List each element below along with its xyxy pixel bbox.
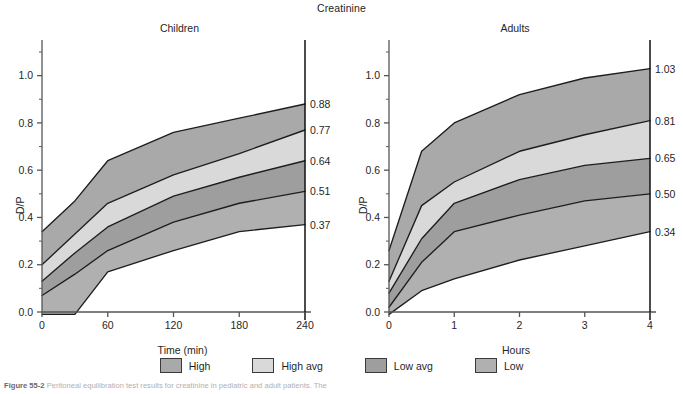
legend-item-high-avg: High avg (252, 358, 322, 373)
caption-body: Peritoneal equilibration test results fo… (47, 381, 327, 390)
y-tick-label: 1.0 (18, 69, 33, 81)
x-axis-label-adults: Hours (341, 344, 683, 356)
plot-children: 0.00.20.40.60.81.00601201802400.880.770.… (0, 22, 341, 352)
x-axis-label-children: Time (min) (0, 344, 341, 356)
legend-swatch-icon (365, 358, 387, 373)
y-tick-label: 0.0 (365, 306, 380, 318)
endpoint-value-label: 1.03 (655, 63, 676, 75)
y-tick-label: 0.8 (18, 117, 33, 129)
y-tick-label: 1.0 (365, 69, 380, 81)
y-axis-label-children: D/P (14, 196, 26, 214)
legend-item-high: High (160, 358, 211, 373)
chart-panel-children: Children 0.00.20.40.60.81.00601201802400… (0, 22, 341, 352)
figure-root: Creatinine Children 0.00.20.40.60.81.006… (0, 0, 683, 394)
chart-panel-adults: Adults 0.00.20.40.60.81.0012341.030.810.… (341, 22, 683, 352)
endpoint-value-label: 0.81 (655, 115, 676, 127)
legend-label: High avg (281, 360, 322, 372)
x-tick-label: 120 (165, 319, 183, 331)
endpoint-value-label: 0.50 (655, 188, 676, 200)
x-tick-label: 4 (647, 319, 653, 331)
figure-caption: Figure 55-2 Peritoneal equilibration tes… (4, 381, 683, 390)
y-tick-label: 0.2 (365, 258, 380, 270)
endpoint-value-label: 0.77 (310, 124, 331, 136)
x-tick-label: 1 (451, 319, 457, 331)
y-tick-label: 0.6 (365, 164, 380, 176)
legend-swatch-icon (252, 358, 274, 373)
legend-label: Low avg (394, 360, 433, 372)
plot-adults: 0.00.20.40.60.81.0012341.030.810.650.500… (341, 22, 683, 352)
x-tick-label: 240 (296, 319, 314, 331)
y-tick-label: 0.2 (18, 258, 33, 270)
chart-legend: HighHigh avgLow avgLow (0, 358, 683, 373)
x-tick-label: 60 (102, 319, 114, 331)
endpoint-value-label: 0.51 (310, 185, 331, 197)
legend-label: Low (504, 360, 523, 372)
y-tick-label: 0.0 (18, 306, 33, 318)
legend-swatch-icon (475, 358, 497, 373)
y-axis-label-adults: D/P (357, 196, 369, 214)
legend-label: High (189, 360, 211, 372)
endpoint-value-label: 0.64 (310, 155, 331, 167)
endpoint-value-label: 0.37 (310, 219, 331, 231)
x-tick-label: 3 (582, 319, 588, 331)
legend-swatch-icon (160, 358, 182, 373)
y-tick-label: 0.8 (365, 117, 380, 129)
x-tick-label: 0 (39, 319, 45, 331)
caption-figure-number: Figure 55-2 (4, 381, 45, 390)
x-tick-label: 180 (230, 319, 248, 331)
figure-title: Creatinine (0, 2, 683, 14)
endpoint-value-label: 0.34 (655, 226, 676, 238)
x-tick-label: 0 (386, 319, 392, 331)
x-tick-label: 2 (517, 319, 523, 331)
legend-item-low: Low (475, 358, 523, 373)
endpoint-value-label: 0.65 (655, 152, 676, 164)
legend-item-low-avg: Low avg (365, 358, 433, 373)
endpoint-value-label: 0.88 (310, 98, 331, 110)
y-tick-label: 0.6 (18, 164, 33, 176)
